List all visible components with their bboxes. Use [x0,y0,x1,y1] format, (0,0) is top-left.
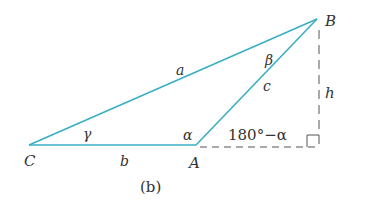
side-label-h: h [325,84,335,102]
side-label-c: c [263,78,271,94]
angle-label-exterior: 180°−α [228,126,287,144]
angle-label-beta: β [264,52,273,68]
vertex-label-c: C [24,152,36,170]
triangle-diagram: B C A a b c h β γ α 180°−α (b) [0,0,366,212]
angle-label-gamma: γ [83,126,92,142]
figure-caption: (b) [140,178,161,196]
angle-label-alpha: α [183,127,193,143]
side-label-b: b [120,153,129,169]
vertex-label-a: A [187,154,200,172]
vertex-label-b: B [324,12,336,30]
side-label-a: a [176,62,184,78]
right-angle-marker [307,135,319,147]
